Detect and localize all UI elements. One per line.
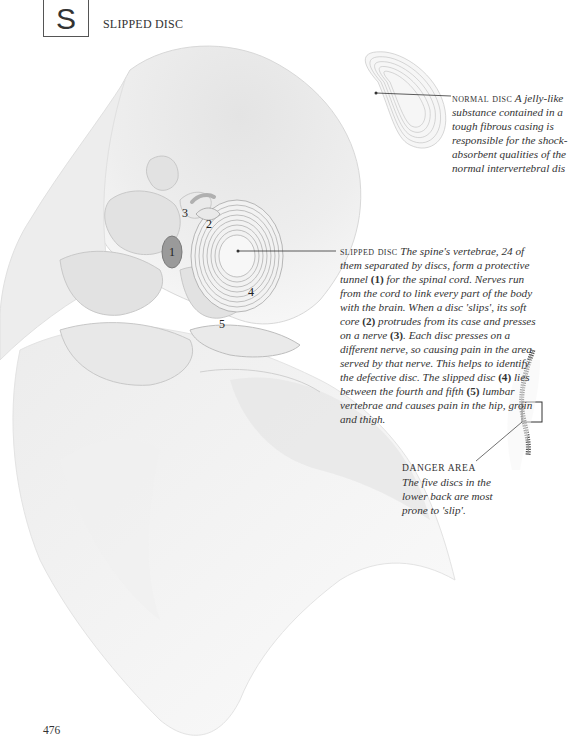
ref-4: (4) <box>498 371 511 383</box>
label-1: 1 <box>169 245 175 260</box>
caption-line: A jelly-like <box>515 92 564 104</box>
caption-slipped-disc: SLIPPED DISC The spine's vertebrae, 24 o… <box>340 244 540 426</box>
ref-1: (1) <box>371 273 384 285</box>
caption-line: normal intervertebral dis <box>452 162 565 174</box>
caption-line: absorbent qualities of the <box>452 148 566 160</box>
caption-line: responsible for the shock- <box>452 134 567 146</box>
section-title: SLIPPED DISC <box>103 17 183 32</box>
caption-normal-disc: NORMAL DISC A jelly-like substance conta… <box>452 91 577 175</box>
section-letter-box: S <box>43 0 89 37</box>
caption-heading: NORMAL DISC <box>452 92 512 104</box>
ref-5: (5) <box>466 385 479 397</box>
section-letter: S <box>56 4 76 34</box>
caption-text: The five discs in the lower back are mos… <box>402 476 493 516</box>
page-number: 476 <box>43 724 60 736</box>
caption-line: tough fibrous casing is <box>452 120 554 132</box>
caption-heading: SLIPPED DISC <box>340 245 397 257</box>
label-4: 4 <box>248 285 254 300</box>
ref-2: (2) <box>362 315 375 327</box>
label-2: 2 <box>206 217 212 232</box>
label-3: 3 <box>182 206 188 221</box>
caption-heading: DANGER AREA <box>402 461 512 475</box>
caption-line: substance contained in a <box>452 106 563 118</box>
ref-3: (3) <box>390 329 403 341</box>
label-5: 5 <box>219 317 225 332</box>
caption-danger-area: DANGER AREA The five discs in the lower … <box>402 461 512 517</box>
normal-disc <box>365 52 446 148</box>
